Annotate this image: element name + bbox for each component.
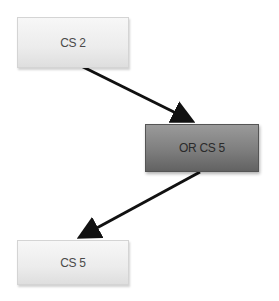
node-label: CS 5 xyxy=(60,256,85,270)
node-cs5: CS 5 xyxy=(17,240,129,285)
arrow-cs2-to-orcs5 xyxy=(73,62,190,120)
node-label: CS 2 xyxy=(60,36,85,50)
arrow-orcs5-to-cs5 xyxy=(82,172,200,236)
node-or-cs5: OR CS 5 xyxy=(145,124,259,172)
node-cs2: CS 2 xyxy=(17,17,129,68)
node-label: OR CS 5 xyxy=(179,141,225,155)
